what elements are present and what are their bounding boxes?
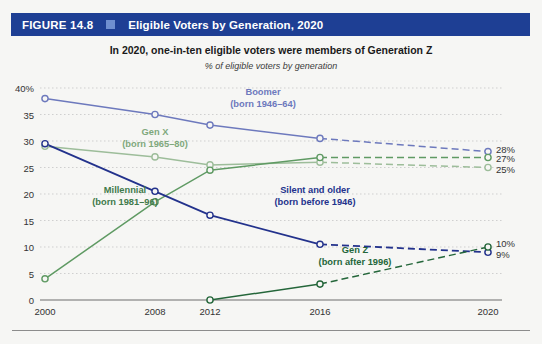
series-label-silent: Silent and older (born before 1946) bbox=[245, 185, 385, 208]
series-label-millennial-sub: (born 1981–96) bbox=[65, 197, 185, 209]
series-label-genx-sub: (born 1965–80) bbox=[95, 139, 215, 151]
series-label-genx: Gen X (born 1965–80) bbox=[95, 127, 215, 150]
series-label-genz-sub: (born after 1996) bbox=[290, 257, 420, 269]
x-tick-2000: 2000 bbox=[34, 306, 55, 317]
chart-subtitle: In 2020, one-in-ten eligible voters were… bbox=[0, 44, 542, 56]
chart-axis-note: % of eligible voters by generation bbox=[0, 61, 542, 71]
figure-container: FIGURE 14.8 Eligible Voters by Generatio… bbox=[0, 0, 542, 344]
y-tick-30: 30 bbox=[0, 136, 34, 147]
series-label-boomer-sub: (born 1946–64) bbox=[203, 99, 323, 111]
series-label-genz: Gen Z (born after 1996) bbox=[290, 245, 420, 268]
series-label-silent-sub: (born before 1946) bbox=[245, 197, 385, 209]
x-tick-2008: 2008 bbox=[144, 306, 165, 317]
series-line-genx-projected bbox=[320, 162, 488, 167]
source-note-clipped bbox=[12, 338, 530, 344]
x-tick-2012: 2012 bbox=[199, 306, 220, 317]
end-label-silent: 9% bbox=[496, 249, 510, 260]
series-label-boomer-name: Boomer bbox=[203, 87, 323, 99]
series-line-millennial bbox=[45, 158, 320, 279]
y-tick-5: 5 bbox=[0, 268, 34, 279]
y-tick-20: 20 bbox=[0, 189, 34, 200]
series-label-silent-name: Silent and older bbox=[245, 185, 385, 197]
y-tick-15: 15 bbox=[0, 215, 34, 226]
figure-banner: FIGURE 14.8 Eligible Voters by Generatio… bbox=[11, 13, 530, 36]
series-line-genz bbox=[210, 284, 320, 300]
figure-number: FIGURE 14.8 bbox=[22, 19, 93, 31]
end-label-genz: 10% bbox=[496, 238, 515, 249]
footer-divider bbox=[12, 330, 530, 331]
series-label-genx-name: Gen X bbox=[95, 127, 215, 139]
y-tick-35: 35 bbox=[0, 109, 34, 120]
x-tick-2020: 2020 bbox=[477, 306, 498, 317]
y-tick-40: 40% bbox=[0, 83, 34, 94]
plot-area: Boomer (born 1946–64) Gen X (born 1965–8… bbox=[40, 88, 502, 300]
series-label-millennial-name: Millennial bbox=[65, 185, 185, 197]
y-tick-25: 25 bbox=[0, 162, 34, 173]
end-label-genx: 25% bbox=[496, 164, 515, 175]
x-tick-2016: 2016 bbox=[309, 306, 330, 317]
series-line-boomer-projected bbox=[320, 138, 488, 151]
figure-title: Eligible Voters by Generation, 2020 bbox=[128, 19, 323, 31]
gridlines bbox=[40, 88, 502, 274]
y-tick-0: 0 bbox=[0, 295, 34, 306]
end-label-millennial: 27% bbox=[496, 153, 515, 164]
series-label-millennial: Millennial (born 1981–96) bbox=[65, 185, 185, 208]
y-tick-10: 10 bbox=[0, 242, 34, 253]
series-label-genz-name: Gen Z bbox=[290, 245, 420, 257]
square-marker-icon bbox=[106, 20, 115, 29]
series-label-boomer: Boomer (born 1946–64) bbox=[203, 87, 323, 110]
